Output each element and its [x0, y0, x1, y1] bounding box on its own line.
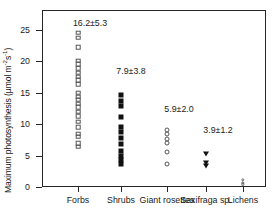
y-axis-tick	[36, 187, 42, 188]
data-point-open-circle	[165, 161, 170, 166]
data-point-open-square	[76, 45, 81, 50]
y-axis-tick-label: 15	[8, 88, 30, 98]
data-point-filled-square	[119, 142, 124, 147]
data-point-filled-triangle-down	[203, 151, 209, 156]
data-point-filled-square	[119, 136, 124, 141]
mean-sd-annotation: 16.2±5.3	[73, 18, 107, 28]
x-axis-category-label: Lichens	[228, 195, 258, 205]
data-point-filled-triangle-down	[203, 164, 209, 169]
mean-sd-annotation: 7.9±3.8	[116, 66, 145, 76]
data-point-open-square	[76, 125, 81, 130]
y-axis-title-close: )	[3, 48, 13, 51]
x-axis-tick	[243, 187, 244, 192]
y-axis-unit-exp2: -1	[1, 51, 8, 56]
data-point-filled-square	[119, 124, 124, 129]
mean-sd-annotation: 3.9±1.2	[203, 125, 232, 135]
y-axis-tick-label: 10	[8, 119, 30, 129]
y-axis-tick-label: 0	[8, 182, 30, 192]
y-axis-tick-label: 25	[8, 25, 30, 35]
x-axis-tick	[206, 187, 207, 192]
x-axis-tick	[121, 187, 122, 192]
y-axis-title-text: Maximum photosynthesis (	[3, 93, 13, 193]
data-point-open-square	[76, 35, 81, 40]
y-axis-tick-label: 20	[8, 56, 30, 66]
data-point-open-square	[76, 134, 81, 139]
x-axis-category-label: Shrubs	[107, 195, 135, 205]
data-point-filled-square	[119, 93, 124, 98]
data-point-open-square	[76, 119, 81, 124]
mean-sd-annotation: 5.9±2.0	[164, 104, 193, 114]
y-axis-unit-main: mol m	[3, 65, 13, 88]
data-point-filled-square	[119, 114, 124, 119]
data-point-filled-square	[119, 161, 124, 166]
x-axis-tick	[167, 187, 168, 192]
x-axis-category-label: Forbs	[67, 195, 90, 205]
data-point-open-circle	[165, 141, 170, 146]
y-axis-tick-label: 5	[8, 151, 30, 161]
x-axis-tick	[78, 187, 79, 192]
data-point-open-square	[76, 145, 81, 150]
x-axis-category-label: Saxifraga sp.	[180, 195, 231, 205]
data-point-filled-square	[119, 130, 124, 135]
data-point-open-square	[76, 30, 81, 35]
data-point-open-square	[76, 82, 81, 87]
data-point-open-square	[76, 114, 81, 119]
data-point-filled-square	[119, 104, 124, 109]
chart-figure: Maximum photosynthesis (µmol m-2s-1) 051…	[0, 0, 276, 219]
data-point-open-circle	[165, 149, 170, 154]
